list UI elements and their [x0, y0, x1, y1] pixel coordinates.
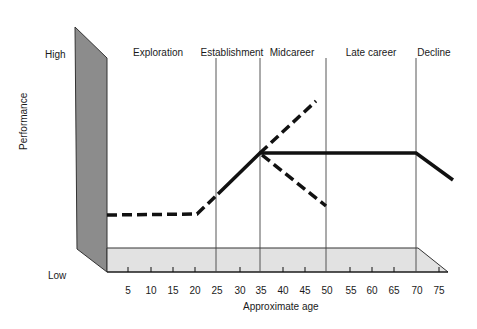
stage-label-exploration: Exploration [133, 47, 183, 58]
stage-label-midcareer: Midcareer [270, 47, 314, 58]
stage-label-decline: Decline [417, 47, 450, 58]
x-tick-label: 40 [277, 285, 288, 296]
stage-label-late-career: Late career [346, 47, 397, 58]
x-tick-label: 50 [321, 285, 332, 296]
x-tick-label: 30 [234, 285, 245, 296]
midcareer-decline-dashed-line [262, 155, 326, 206]
x-tick-label: 55 [345, 285, 356, 296]
x-tick-label: 60 [366, 285, 377, 296]
y-axis-title: Performance [18, 93, 29, 150]
x-axis-title: Approximate age [243, 301, 319, 312]
x-tick-label: 20 [189, 285, 200, 296]
x-tick-label: 25 [211, 285, 222, 296]
midcareer-growth-dashed-line [260, 101, 316, 153]
x-tick-label: 75 [433, 285, 444, 296]
x-tick-label: 70 [411, 285, 422, 296]
x-tick-label: 65 [388, 285, 399, 296]
x-tick-label: 15 [167, 285, 178, 296]
floor-plane [107, 248, 448, 272]
early-career-dashed-line [107, 194, 218, 215]
x-tick-label: 10 [145, 285, 156, 296]
main-career-solid-line [218, 153, 453, 194]
x-tick-label: 35 [255, 285, 266, 296]
x-tick-label: 45 [299, 285, 310, 296]
x-tick-label: 5 [125, 285, 131, 296]
y-low-label: Low [48, 270, 66, 281]
stage-label-establishment: Establishment [201, 47, 264, 58]
y-high-label: High [45, 49, 66, 60]
back-wall [75, 27, 107, 272]
